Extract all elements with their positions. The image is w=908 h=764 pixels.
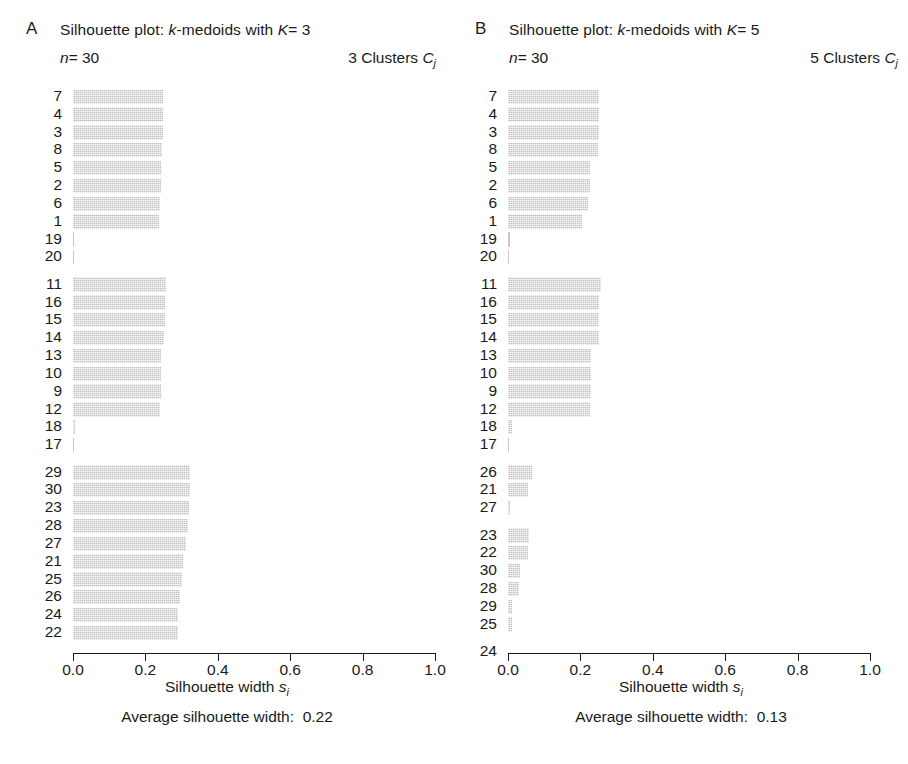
panel-b-plot-area: 7438526119201116151413109121817262127232… xyxy=(454,88,908,638)
silhouette-row: 30 xyxy=(454,562,908,580)
silhouette-row-label: 2 xyxy=(20,176,62,194)
x-axis-tick xyxy=(218,653,219,661)
silhouette-row-label: 9 xyxy=(455,382,497,400)
silhouette-bar xyxy=(508,331,599,345)
x-axis-tick xyxy=(73,653,74,661)
silhouette-row-label: 8 xyxy=(20,140,62,158)
silhouette-row-label: 2 xyxy=(455,176,497,194)
silhouette-row-label: 18 xyxy=(455,417,497,435)
silhouette-row: 11 xyxy=(454,276,908,294)
silhouette-bar xyxy=(508,250,509,264)
silhouette-row: 24 xyxy=(0,606,454,624)
silhouette-bar xyxy=(508,617,512,631)
silhouette-bar xyxy=(73,519,188,533)
silhouette-row-label: 15 xyxy=(455,310,497,328)
silhouette-row-label: 21 xyxy=(455,480,497,498)
silhouette-bar xyxy=(508,214,582,228)
silhouette-row: 25 xyxy=(0,571,454,589)
silhouette-bar xyxy=(73,250,74,264)
silhouette-row-label: 14 xyxy=(20,328,62,346)
silhouette-row-label: 14 xyxy=(455,328,497,346)
x-axis-tick xyxy=(435,653,436,661)
silhouette-bar xyxy=(73,501,189,515)
silhouette-row: 6 xyxy=(454,195,908,213)
silhouette-row-label: 22 xyxy=(455,543,497,561)
silhouette-row: 29 xyxy=(0,464,454,482)
silhouette-row: 26 xyxy=(0,588,454,606)
panel-a-x-axis-title-symbol: s xyxy=(279,678,287,695)
x-axis-tick-label: 0.2 xyxy=(557,661,603,679)
silhouette-row-label: 11 xyxy=(20,275,62,293)
silhouette-row-label: 19 xyxy=(20,230,62,248)
silhouette-row-label: 27 xyxy=(20,534,62,552)
silhouette-bar xyxy=(508,546,528,560)
panel-a-clusters-symbol: C xyxy=(422,49,433,66)
panel-b-x-axis-title-prefix: Silhouette width xyxy=(619,678,733,695)
silhouette-row-label: 28 xyxy=(455,579,497,597)
silhouette-row-label: 25 xyxy=(20,570,62,588)
silhouette-row-label: 10 xyxy=(455,364,497,382)
silhouette-bar xyxy=(73,554,183,568)
x-axis-tick-label: 0.0 xyxy=(485,661,531,679)
silhouette-row-label: 13 xyxy=(455,346,497,364)
silhouette-row: 11 xyxy=(0,276,454,294)
panel-a-clusters-annotation: 3 Clusters Cj xyxy=(348,49,436,69)
panel-a-title-prefix: Silhouette plot: xyxy=(60,21,169,38)
silhouette-bar xyxy=(73,402,160,416)
silhouette-bar xyxy=(508,161,590,175)
silhouette-bar xyxy=(73,465,190,479)
panel-b-n-italic: n xyxy=(509,49,518,66)
silhouette-bar xyxy=(73,295,165,309)
silhouette-row-label: 26 xyxy=(20,587,62,605)
panel-a-clusters-text: 3 Clusters xyxy=(348,49,422,66)
silhouette-bar xyxy=(508,600,512,614)
panel-b-clusters-annotation: 5 Clusters Cj xyxy=(810,49,898,69)
silhouette-row: 7 xyxy=(0,88,454,106)
silhouette-bar xyxy=(73,214,159,228)
panel-b-clusters-text: 5 Clusters xyxy=(810,49,884,66)
silhouette-row: 30 xyxy=(0,481,454,499)
silhouette-row: 10 xyxy=(454,365,908,383)
silhouette-row-label: 30 xyxy=(20,480,62,498)
silhouette-row-label: 15 xyxy=(20,310,62,328)
silhouette-row: 2 xyxy=(0,177,454,195)
panel-b: B Silhouette plot: k-medoids with K= 5 n… xyxy=(454,0,908,764)
silhouette-row-label: 11 xyxy=(455,275,497,293)
silhouette-row: 15 xyxy=(0,311,454,329)
panel-a-x-axis-title-subscript: i xyxy=(287,686,289,698)
silhouette-bar xyxy=(508,501,510,515)
silhouette-row-label: 30 xyxy=(455,561,497,579)
silhouette-row: 16 xyxy=(0,294,454,312)
panel-a-n-label: n= 30 xyxy=(60,49,99,67)
panel-a-title-mid: -medoids with xyxy=(176,21,277,38)
panel-b-clusters-symbol: C xyxy=(884,49,895,66)
silhouette-bar xyxy=(508,295,599,309)
silhouette-row-label: 20 xyxy=(20,247,62,265)
silhouette-row: 1 xyxy=(454,213,908,231)
silhouette-bar xyxy=(508,197,588,211)
silhouette-row-label: 22 xyxy=(20,623,62,641)
panel-b-x-axis-title: Silhouette width si xyxy=(454,678,908,698)
silhouette-bar xyxy=(73,626,178,640)
x-axis-tick xyxy=(363,653,364,661)
x-axis-tick-label: 0.4 xyxy=(630,661,676,679)
silhouette-bar xyxy=(73,277,166,291)
panel-b-letter: B xyxy=(475,19,487,39)
silhouette-row: 13 xyxy=(454,347,908,365)
silhouette-row-label: 29 xyxy=(455,597,497,615)
silhouette-bar xyxy=(508,564,520,578)
silhouette-row: 12 xyxy=(0,401,454,419)
silhouette-row: 13 xyxy=(0,347,454,365)
silhouette-row: 23 xyxy=(0,499,454,517)
silhouette-row-label: 29 xyxy=(20,463,62,481)
silhouette-bar xyxy=(73,572,182,586)
panel-b-title-prefix: Silhouette plot: xyxy=(509,21,618,38)
x-axis-tick xyxy=(870,653,871,661)
panel-a-clusters-subscript: j xyxy=(434,57,436,69)
silhouette-row: 29 xyxy=(454,598,908,616)
silhouette-row-label: 3 xyxy=(455,123,497,141)
silhouette-bar xyxy=(508,313,599,327)
panel-a-letter: A xyxy=(26,19,38,39)
silhouette-row-label: 4 xyxy=(455,105,497,123)
panel-a-x-axis-title: Silhouette width si xyxy=(0,678,454,698)
